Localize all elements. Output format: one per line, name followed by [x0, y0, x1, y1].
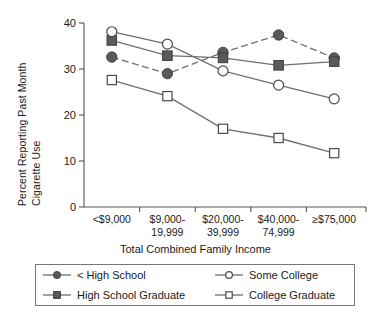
- plot-area: 010203040<$9,000$9,000-19,999$20,000-39,…: [0, 0, 391, 240]
- x-tick-label: $9,000-: [150, 213, 186, 225]
- legend-item-label: High School Graduate: [77, 289, 185, 301]
- y-tick-label: 20: [64, 109, 76, 121]
- legend-marker-filled-square: [42, 289, 72, 301]
- data-point-s3-c4: [330, 149, 339, 158]
- x-axis-title: Total Combined Family Income: [0, 243, 391, 255]
- legend-item-1[interactable]: Some College: [208, 269, 356, 281]
- x-tick-label: $40,000-: [258, 213, 300, 225]
- data-point-s2-c2: [218, 66, 228, 76]
- x-tick-label: ≥$75,000: [312, 213, 356, 225]
- data-point-s2-c1: [162, 39, 172, 49]
- data-point-s3-c0: [107, 75, 116, 84]
- data-point-s0-c3: [273, 30, 283, 40]
- data-point-s1-c1: [163, 51, 173, 61]
- legend-item-label: College Graduate: [249, 289, 335, 301]
- x-tick-label: 39,999: [207, 226, 239, 238]
- legend-item-2[interactable]: High School Graduate: [36, 289, 208, 301]
- x-tick-label: 19,999: [151, 226, 183, 238]
- data-point-s3-c3: [274, 133, 283, 142]
- legend-marker-open-circle: [214, 269, 244, 281]
- x-tick-label: <$9,000: [93, 213, 131, 225]
- legend-item-label: Some College: [249, 269, 318, 281]
- chart-figure: Percent Reporting Past Month Cigarette U…: [0, 0, 391, 316]
- data-point-s3-c1: [163, 92, 172, 101]
- data-point-s1-c4: [329, 57, 339, 67]
- x-tick-label: 74,999: [263, 226, 295, 238]
- y-tick-label: 40: [64, 17, 76, 29]
- legend-item-0[interactable]: < High School: [36, 269, 208, 281]
- data-point-s3-c2: [218, 124, 227, 133]
- data-point-s2-c4: [329, 94, 339, 104]
- x-tick-label: $20,000-: [202, 213, 244, 225]
- data-point-s0-c1: [162, 68, 172, 78]
- legend-item-3[interactable]: College Graduate: [208, 289, 356, 301]
- data-point-s0-c0: [107, 52, 117, 62]
- y-tick-label: 0: [70, 201, 76, 213]
- data-point-s2-c0: [107, 27, 117, 37]
- legend-marker-open-square: [214, 289, 244, 301]
- y-tick-label: 10: [64, 155, 76, 167]
- legend: < High SchoolSome CollegeHigh School Gra…: [35, 264, 355, 306]
- data-point-s1-c3: [274, 61, 284, 71]
- data-point-s1-c2: [218, 53, 228, 63]
- legend-marker-filled-circle: [42, 269, 72, 281]
- data-point-s2-c3: [274, 80, 284, 90]
- legend-item-label: < High School: [77, 269, 146, 281]
- y-tick-label: 30: [64, 63, 76, 75]
